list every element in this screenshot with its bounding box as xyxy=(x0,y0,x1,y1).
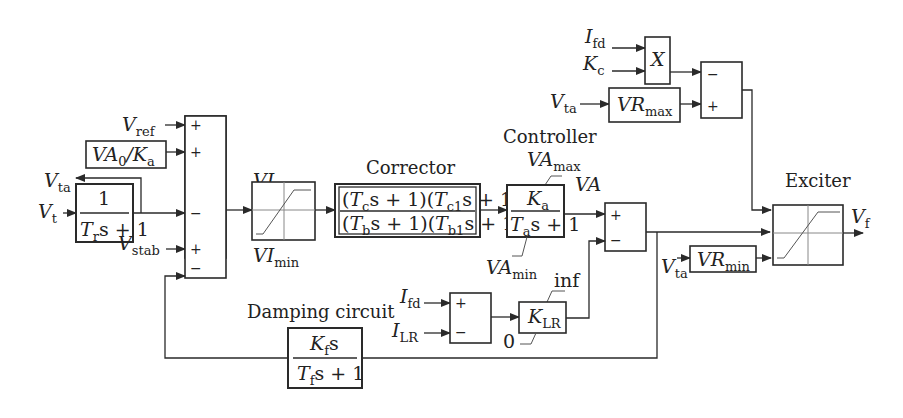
svg-text:Damping circuit: Damping circuit xyxy=(247,301,395,322)
svg-text:VImin: VImin xyxy=(253,244,300,270)
svg-text:VA: VA xyxy=(575,173,601,195)
svg-text:+: + xyxy=(707,98,719,114)
svg-text:1: 1 xyxy=(98,187,110,209)
sign-minus: − xyxy=(190,205,202,221)
svg-text:+: + xyxy=(610,207,622,223)
summer2-block: + − xyxy=(605,203,770,251)
svg-text:0: 0 xyxy=(503,330,515,352)
svg-text:X: X xyxy=(649,48,666,70)
svg-text:Vf: Vf xyxy=(851,205,871,231)
svg-text:VAmax: VAmax xyxy=(527,148,581,174)
svg-text:Ifd: Ifd xyxy=(584,25,606,51)
vref-signal: Vref xyxy=(122,113,185,139)
svg-text:VAmin: VAmin xyxy=(486,256,538,282)
svg-text:Vta: Vta xyxy=(44,169,71,195)
sign-plus: + xyxy=(190,144,202,160)
svg-text:Exciter: Exciter xyxy=(785,170,851,191)
svg-text:Kc: Kc xyxy=(582,52,604,78)
vt-signal: Vt xyxy=(38,200,76,226)
svg-text:Ifd: Ifd xyxy=(399,285,421,311)
sign-plus: + xyxy=(190,117,202,133)
svg-text:Controller: Controller xyxy=(503,126,597,147)
svg-text:−: − xyxy=(707,66,719,82)
va0-ka-block: VA0/Ka xyxy=(86,141,185,169)
vr-max-block: Vta VRmax xyxy=(550,88,701,122)
corrector-block: Corrector (Tcs + 1)(Tc1s + 1) (Tbs + 1)(… xyxy=(335,157,522,238)
svg-text:+: + xyxy=(455,295,467,311)
excitation-block-diagram: Vref VA0/Ka Vta Vt 1 Trs + 1 Vstab + + −… xyxy=(0,0,903,418)
svg-text:−: − xyxy=(610,232,622,248)
svg-text:−: − xyxy=(455,324,467,340)
svg-text:Vt: Vt xyxy=(38,200,58,226)
multiplier-block: Ifd Kc X xyxy=(582,25,701,84)
svg-text:inf: inf xyxy=(554,269,581,291)
exciter-block: Exciter Vf xyxy=(773,170,871,265)
svg-text:ILR: ILR xyxy=(391,319,419,345)
svg-text:Vref: Vref xyxy=(122,113,156,139)
summer4-block: Ifd ILR + − xyxy=(391,285,519,345)
klr-block: inf KLR 0 xyxy=(503,241,605,352)
svg-text:Vta: Vta xyxy=(550,90,577,116)
vr-min-block: Vta VRmin xyxy=(661,246,771,281)
svg-text:Corrector: Corrector xyxy=(366,157,456,178)
svg-text:Vta: Vta xyxy=(661,255,688,281)
vi-limiter-block: VImax VImin xyxy=(252,169,335,270)
sign-minus: − xyxy=(190,260,202,276)
summer3-block: − + xyxy=(701,62,771,210)
vstab-signal: Vstab xyxy=(118,232,185,258)
sign-plus: + xyxy=(190,241,202,257)
